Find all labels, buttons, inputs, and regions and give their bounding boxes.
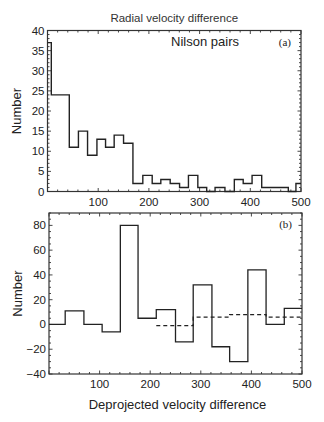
plot-frame (48, 31, 302, 192)
y-tick-label: 20 (32, 105, 45, 117)
x-tick-label: 400 (242, 378, 261, 390)
panel-label: (b) (279, 218, 292, 231)
y-tick-label: −20 (26, 343, 46, 355)
y-tick-label: 0 (38, 186, 44, 198)
panel-label: (a) (279, 36, 292, 49)
x-tick-label: 200 (141, 378, 160, 390)
legend-annotation: Nilson pairs (171, 34, 239, 49)
x-tick-label: 500 (291, 196, 310, 208)
plot-frame (49, 213, 302, 374)
x-tick-label: 300 (191, 378, 210, 390)
y-tick-label: 60 (33, 244, 46, 256)
panel-b: 100200300400500−40−20020406080Number(b)D… (10, 213, 312, 412)
y-tick-label: 10 (32, 145, 45, 157)
histogram-series (48, 43, 302, 192)
x-tick-label: 100 (90, 378, 109, 390)
panel-a: 1002003004005000510152025303540NumberRad… (9, 12, 311, 208)
y-tick-label: 35 (32, 45, 45, 57)
x-tick-label: 300 (190, 196, 209, 208)
chart-title: Radial velocity difference (110, 12, 238, 24)
x-tick-label: 500 (292, 378, 311, 390)
y-tick-label: 25 (32, 85, 45, 97)
x-axis-title: Deprojected velocity difference (89, 397, 267, 412)
y-axis-title: Number (10, 270, 25, 317)
y-axis-title: Number (9, 87, 24, 134)
y-tick-label: 15 (32, 125, 45, 137)
y-tick-label: 40 (33, 269, 46, 281)
histogram-series-solid (49, 225, 302, 361)
x-tick-label: 100 (89, 196, 108, 208)
y-tick-label: 80 (33, 219, 46, 231)
y-tick-label: 20 (33, 294, 46, 306)
y-tick-label: 5 (38, 165, 44, 177)
y-tick-label: 30 (32, 65, 45, 77)
x-tick-label: 400 (241, 196, 260, 208)
y-tick-label: 0 (40, 318, 46, 330)
x-tick-label: 200 (139, 196, 158, 208)
histogram-figure: 1002003004005000510152025303540NumberRad… (0, 0, 324, 422)
y-tick-label: −40 (26, 368, 46, 380)
y-tick-label: 40 (32, 25, 45, 37)
